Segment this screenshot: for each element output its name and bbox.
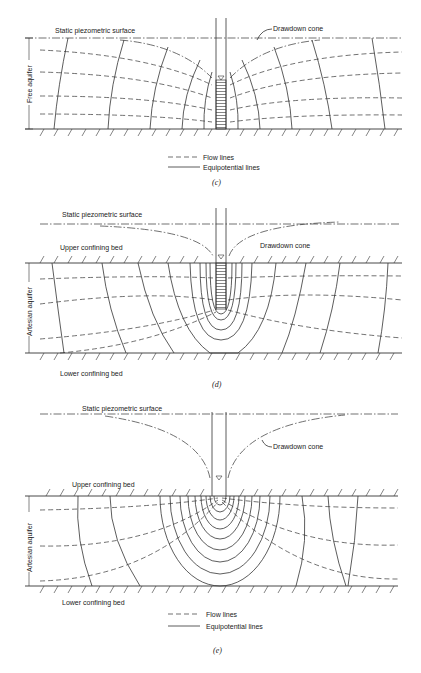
- lower-bed-label-d: Lower confining bed: [60, 370, 123, 378]
- legend-equipotential-lines-c: Equipotential lines: [203, 164, 260, 172]
- static-surface-label-d: Static piezometric surface: [62, 211, 142, 219]
- caption-e: (e): [213, 646, 222, 655]
- caption-d: (d): [212, 380, 222, 389]
- drawdown-cone-left: [120, 40, 212, 78]
- lower-bed-label-e: Lower confining bed: [62, 599, 125, 607]
- upper-bed-label-d: Upper confining bed: [60, 244, 123, 252]
- static-surface-label-c: Static piezometric surface: [55, 27, 135, 35]
- panel-e: Artesian aquifer Static piezometric surf…: [24, 405, 398, 655]
- caption-c: (c): [212, 178, 221, 187]
- aquifer-label-d: Artesian aquifer: [26, 286, 34, 336]
- aquifer-label-c: Free aquifer: [26, 65, 34, 103]
- water-level-icon: [218, 76, 224, 80]
- static-surface-label-e: Static piezometric surface: [82, 405, 162, 413]
- legend-flow-lines-c: Flow lines: [203, 154, 235, 161]
- groundwater-flow-diagrams: Free aquifer Static piezometric surface …: [0, 0, 421, 673]
- upper-bed-label-e: Upper confining bed: [72, 481, 135, 489]
- panel-c: Free aquifer Static piezometric surface …: [24, 18, 402, 187]
- legend-equipotential-lines-e: Equipotential lines: [206, 623, 263, 631]
- well-screen: [216, 80, 226, 129]
- drawdown-cone-label-e: Drawdown cone: [273, 443, 323, 450]
- drawdown-cone-label-d: Drawdown cone: [260, 242, 310, 249]
- legend-flow-lines-e: Flow lines: [206, 611, 238, 618]
- drawdown-cone-right: [230, 40, 320, 78]
- panel-d: Artesian aquifer Static piezometric surf…: [24, 208, 402, 389]
- drawdown-cone-label-c: Drawdown cone: [273, 25, 323, 32]
- aquifer-label-e: Artesian aquifer: [26, 522, 34, 572]
